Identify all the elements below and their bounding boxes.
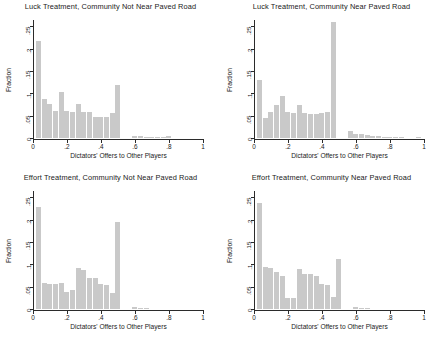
histogram-bar	[274, 105, 279, 138]
histogram-bar	[42, 99, 47, 138]
histogram-bar	[87, 278, 92, 309]
histogram-bar	[138, 136, 143, 138]
histogram-bar	[87, 112, 92, 138]
histogram-bar	[257, 203, 262, 309]
y-axis-tick-label: .15	[246, 242, 253, 251]
x-axis-tick-label: .6	[353, 143, 358, 151]
y-axis-tick-label: 0	[246, 138, 253, 141]
y-axis-tick-label: .15	[25, 71, 32, 80]
histogram-bar	[376, 136, 381, 138]
histogram-bar	[166, 136, 171, 138]
histogram-bar	[98, 284, 103, 309]
y-axis-tick-label: .1	[25, 264, 32, 269]
histogram-bars	[254, 193, 424, 309]
plot-area	[254, 22, 424, 138]
histogram-bar	[280, 276, 285, 309]
y-axis-tick-label: .05	[246, 116, 253, 125]
panel-title: Effort Treatment, Community Near Paved R…	[221, 173, 442, 183]
x-axis-tick-label: .4	[319, 143, 324, 151]
histogram-bar	[81, 112, 86, 138]
histogram-bar	[274, 272, 279, 309]
histogram-bar	[104, 117, 109, 138]
histogram-bars	[33, 193, 203, 309]
histogram-bar	[42, 283, 47, 309]
histogram-bar	[348, 131, 353, 138]
x-axis-title: Dictators' Offers to Other Players	[254, 152, 425, 160]
histogram-bar	[81, 270, 86, 309]
histogram-bar	[257, 80, 262, 138]
panel-bottom-right: Effort Treatment, Community Near Paved R…	[221, 171, 442, 342]
y-axis-tick-label: .1	[246, 93, 253, 98]
y-axis-tick-label: .25	[25, 197, 32, 206]
histogram-bar	[70, 112, 75, 138]
x-axis-tick-label: .2	[285, 314, 290, 322]
x-axis-tick-label: .8	[387, 143, 392, 151]
y-axis-tick-label: 0	[25, 309, 32, 312]
y-axis-tick-label: .2	[25, 220, 32, 225]
histogram-bar	[382, 137, 387, 138]
histogram-bar	[336, 259, 341, 309]
histogram-bar	[59, 92, 64, 138]
histogram-bar	[314, 276, 319, 309]
histogram-bar	[144, 137, 149, 138]
histogram-bar	[353, 307, 358, 309]
histogram-bar	[98, 117, 103, 138]
plot-area	[33, 22, 203, 138]
y-axis-tick-label: .2	[246, 49, 253, 54]
figure-histogram-grid: Luck Treatment, Community Not Near Paved…	[0, 0, 442, 342]
y-axis-tick-label: .1	[246, 264, 253, 269]
plot-area	[254, 193, 424, 309]
histogram-bars	[33, 22, 203, 138]
histogram-bar	[110, 293, 115, 309]
histogram-bar	[110, 113, 115, 138]
y-axis-tick-label: .25	[25, 26, 32, 35]
histogram-bar	[47, 104, 52, 138]
y-axis-title: Fraction	[5, 239, 13, 263]
x-axis-tick-label: .8	[387, 314, 392, 322]
histogram-bar	[59, 283, 64, 309]
histogram-bar	[104, 285, 109, 309]
histogram-bar	[285, 298, 290, 309]
histogram-bar	[76, 268, 81, 309]
histogram-bar	[47, 284, 52, 309]
y-axis-tick-label: 0	[25, 138, 32, 141]
histogram-bar	[308, 274, 313, 309]
panel-title: Luck Treatment, Community Not Near Paved…	[0, 2, 221, 12]
x-axis-tick-label: 1	[422, 143, 426, 151]
x-axis-tick-label: .2	[285, 143, 290, 151]
histogram-bar	[291, 298, 296, 309]
y-axis-tick-label: .15	[25, 242, 32, 251]
histogram-bar	[359, 134, 364, 138]
x-axis-tick-label: .8	[166, 143, 171, 151]
histogram-bar	[370, 136, 375, 138]
x-axis-tick-label: .4	[319, 314, 324, 322]
histogram-bar	[115, 222, 120, 309]
histogram-bar	[285, 112, 290, 138]
histogram-bar	[268, 112, 273, 138]
x-axis-tick-label: .4	[98, 314, 103, 322]
histogram-bar	[297, 269, 302, 309]
x-axis-title: Dictators' Offers to Other Players	[33, 152, 204, 160]
histogram-bar	[64, 292, 69, 309]
histogram-bar	[155, 137, 160, 138]
x-axis-tick-label: 1	[201, 143, 205, 151]
x-axis-tick-label: .6	[132, 314, 137, 322]
histogram-bar	[132, 307, 137, 309]
histogram-bar	[319, 284, 324, 309]
histogram-bar	[161, 137, 166, 138]
y-axis-tick-label: .25	[246, 26, 253, 35]
histogram-bar	[64, 111, 69, 138]
histogram-bar	[280, 96, 285, 138]
x-axis-tick-label: 0	[252, 143, 256, 151]
x-axis-tick-label: .2	[64, 314, 69, 322]
x-axis-tick-label: .4	[98, 143, 103, 151]
y-axis-tick-label: 0	[246, 309, 253, 312]
x-axis-tick-label: .8	[166, 314, 171, 322]
histogram-bar	[359, 308, 364, 309]
y-axis-title: Fraction	[226, 68, 234, 92]
histogram-bar	[325, 112, 330, 138]
histogram-bar	[138, 308, 143, 309]
x-axis-tick-label: 0	[31, 143, 35, 151]
histogram-bar	[297, 105, 302, 138]
histogram-bar	[302, 113, 307, 138]
